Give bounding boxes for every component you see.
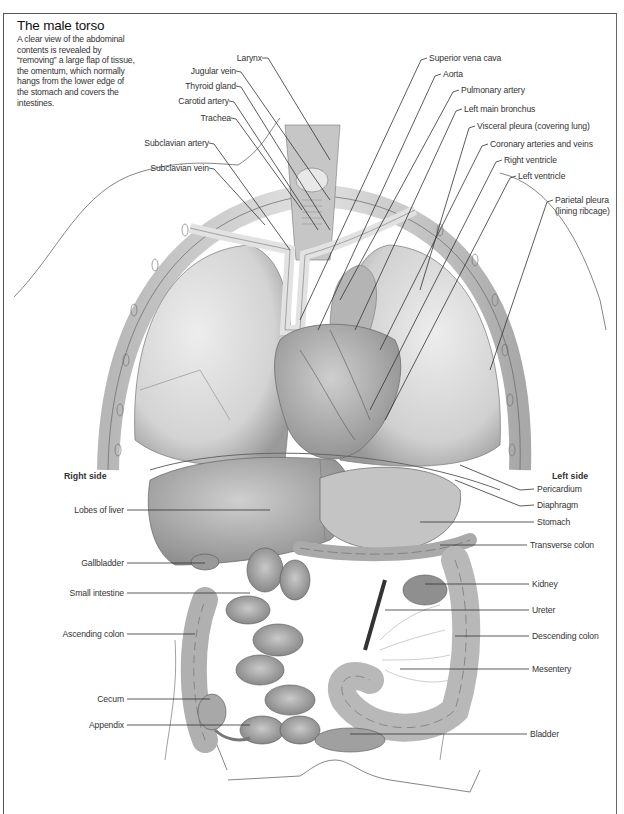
label-descending-colon: Descending colon bbox=[532, 631, 599, 641]
label-left-ventricle: Left ventricle bbox=[518, 171, 565, 181]
label-mesentery: Mesentery bbox=[532, 664, 571, 674]
label-subclavian-artery: Subclavian artery bbox=[144, 138, 209, 148]
label-aorta: Aorta bbox=[443, 69, 463, 79]
label-gallbladder: Gallbladder bbox=[81, 558, 124, 568]
label-transverse-colon: Transverse colon bbox=[530, 540, 594, 550]
label-kidney: Kidney bbox=[532, 579, 558, 589]
label-superior-vena-cava: Superior vena cava bbox=[429, 53, 501, 63]
label-parietal-pleura-note: (lining ribcage) bbox=[555, 206, 610, 216]
label-lobes-of-liver: Lobes of liver bbox=[74, 505, 124, 515]
label-subclavian-vein: Subclavian vein bbox=[150, 163, 209, 173]
label-small-intestine: Small intestine bbox=[70, 588, 124, 598]
label-larynx: Larynx bbox=[237, 53, 262, 63]
label-bladder: Bladder bbox=[530, 729, 559, 739]
label-parietal-pleura: Parietal pleura bbox=[555, 195, 609, 205]
label-cecum: Cecum bbox=[97, 694, 124, 704]
label-coronary-arteries-veins: Coronary arteries and veins bbox=[490, 139, 593, 149]
label-ascending-colon: Ascending colon bbox=[62, 629, 124, 639]
label-stomach: Stomach bbox=[537, 517, 570, 527]
label-pericardium: Pericardium bbox=[537, 484, 582, 494]
left-side-heading: Left side bbox=[552, 471, 588, 481]
right-side-heading: Right side bbox=[64, 471, 107, 481]
label-trachea: Trachea bbox=[200, 113, 231, 123]
label-right-ventricle: Right ventricle bbox=[504, 155, 557, 165]
label-carotid-artery: Carotid artery bbox=[178, 96, 229, 106]
label-visceral-pleura: Visceral pleura (covering lung) bbox=[477, 121, 590, 131]
label-jugular-vein: Jugular vein bbox=[191, 66, 236, 76]
label-appendix: Appendix bbox=[89, 720, 124, 730]
label-pulmonary-artery: Pulmonary artery bbox=[461, 85, 525, 95]
label-ureter: Ureter bbox=[532, 605, 555, 615]
label-thyroid-gland: Thyroid gland bbox=[185, 81, 236, 91]
label-left-main-bronchus: Left main bronchus bbox=[464, 104, 535, 114]
label-diaphragm: Diaphragm bbox=[537, 500, 578, 510]
